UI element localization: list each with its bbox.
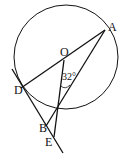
label-e: E (45, 135, 52, 149)
label-o: O (60, 45, 69, 59)
angle-arc (61, 85, 70, 88)
geometry-diagram: A O D B E 32° (0, 0, 123, 162)
label-b: B (39, 121, 47, 135)
label-d: D (14, 83, 23, 97)
label-a: A (108, 20, 117, 34)
angle-label: 32° (62, 71, 76, 82)
